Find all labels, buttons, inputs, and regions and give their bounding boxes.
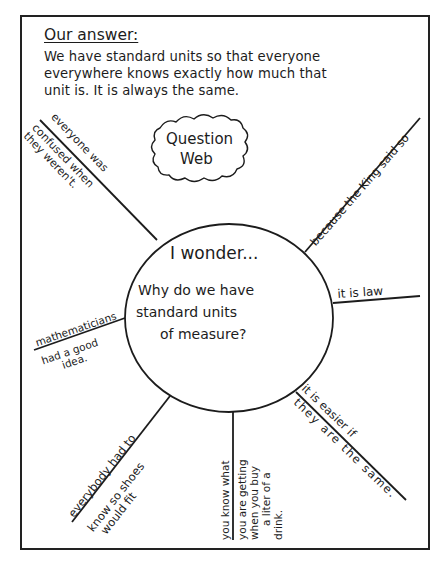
branch-drink-line-2: you are getting <box>236 459 248 540</box>
cloud-title-line-2: Web <box>180 152 213 167</box>
spoke-confused <box>40 120 157 240</box>
branch-drink-line-5: drink. <box>272 459 284 540</box>
branch-law-line-1: it is law <box>337 285 384 301</box>
center-question-line-3: of measure? <box>160 327 246 341</box>
branch-law: it is law <box>337 285 384 301</box>
center-heading: I wonder... <box>170 245 258 262</box>
branch-drink: you know what <box>220 460 231 540</box>
branch-drink-line-1: you know what <box>220 460 231 540</box>
branch-drink-line-3: when you buy <box>248 459 260 540</box>
center-question-line-2: standard units <box>136 305 237 319</box>
branch-drink-below: you are getting when you buy a liter of … <box>236 459 284 540</box>
cloud-title-line-1: Question <box>166 132 233 147</box>
center-question-line-1: Why do we have <box>138 283 254 297</box>
cloud-shape <box>152 115 248 182</box>
branch-drink-line-4: a liter of a <box>260 459 272 540</box>
